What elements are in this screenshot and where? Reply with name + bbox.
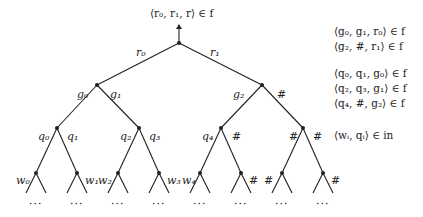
edge-label-hash-l3a: #: [232, 130, 241, 143]
root-arrow: [176, 24, 182, 43]
node-l2-2: [219, 126, 223, 130]
ellipsis-1: ···: [70, 198, 84, 211]
node-l1-right: [260, 83, 264, 87]
leaf-label-w3: w₃: [167, 174, 181, 187]
ellipsis-3: ···: [152, 198, 166, 211]
leaf-label-hash-b: #: [264, 174, 273, 187]
rule-4: ⟨q₄, #, g₂⟩ ∈ f: [334, 97, 406, 109]
rule-5: ⟨wᵢ, qᵢ⟩ ∈ in: [334, 129, 394, 141]
edge-label-q3: q₃: [149, 130, 160, 143]
ellipsis-7: ···: [316, 198, 330, 211]
ellipsis-4: ···: [193, 198, 207, 211]
root-node: [177, 41, 181, 45]
leaf-label-w4: w₄: [182, 174, 196, 187]
edge-label-g2: g₂: [233, 88, 244, 101]
edge-label-g1: g₁: [110, 88, 121, 101]
level3-edges: [36, 128, 323, 173]
ellipsis-0: ···: [29, 198, 43, 211]
edge-r1: [179, 43, 262, 85]
ellipsis-6: ···: [275, 198, 289, 211]
leaf-label-hash-a: #: [249, 174, 258, 187]
node-l1-left: [95, 83, 99, 87]
root-label: ⟨r₀, r₁, r⟩ ∈ f: [150, 7, 214, 19]
node-l2-0: [55, 126, 59, 130]
leaf-label-w1: w₁: [85, 174, 99, 187]
node-l2-1: [137, 126, 141, 130]
edge-label-g0: g₀: [77, 88, 89, 101]
edge-label-r0: r₀: [136, 46, 146, 59]
edge-label-hash-l3b: #: [289, 130, 298, 143]
rule-0: ⟨g₀, g₁, r₀⟩ ∈ f: [334, 25, 406, 37]
rule-3: ⟨q₂, q₃, g₁⟩ ∈ f: [334, 82, 408, 94]
node-l2-3: [301, 126, 305, 130]
ellipsis-5: ···: [234, 198, 248, 211]
ellipsis-2: ···: [111, 198, 125, 211]
edge-label-hash-l3c: #: [313, 130, 322, 143]
rule-1: ⟨g₂, #, r₁⟩ ∈ f: [334, 40, 404, 52]
leaf-label-w0: w₀: [16, 174, 30, 187]
edge-label-q0: q₀: [38, 130, 50, 143]
edge-label-q2: q₂: [120, 130, 131, 143]
edge-label-q1: q₁: [67, 130, 78, 143]
rule-2: ⟨q₀, q₁, g₀⟩ ∈ f: [334, 67, 408, 79]
leaf-label-hash-c: #: [331, 174, 340, 187]
leaf-label-w2: w₂: [98, 174, 112, 187]
edge-label-r1: r₁: [210, 46, 220, 59]
edge-label-q4: q₄: [202, 130, 213, 143]
edge-label-hash-l1: #: [277, 88, 286, 101]
tree-diagram: ⟨r₀, r₁, r⟩ ∈ f r₀ r₁ g₀ g₁ g₂ # q₀ q₁ q…: [0, 0, 423, 217]
